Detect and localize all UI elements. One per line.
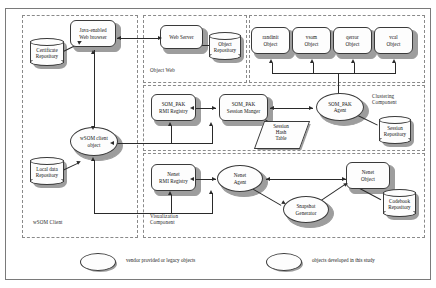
node-sompak-session-manager[interactable]: SOM_PAK Session Manger bbox=[219, 94, 268, 121]
connector-wsomclient-sompak bbox=[113, 143, 213, 144]
connector-wsomclient-down-viz bbox=[94, 160, 95, 213]
node-java-browser[interactable]: Java-enabled Web browser bbox=[70, 20, 116, 47]
connector-vcal-stub bbox=[395, 63, 396, 74]
arrowhead-to-nenetobject bbox=[342, 177, 346, 181]
certificate-repository: Certificate Repository bbox=[30, 38, 64, 66]
node-vcal-object[interactable]: vcal Object bbox=[374, 27, 413, 54]
arrowhead-to-nenetagent bbox=[212, 177, 216, 181]
arrowhead-up-randinit bbox=[269, 59, 273, 63]
group-label-wsom-client: wSOM Client bbox=[33, 219, 103, 225]
connector-nenetagent-nenetobject bbox=[266, 179, 346, 180]
legend-legacy-symbol bbox=[80, 253, 116, 271]
arrowhead-to-nenetrmi bbox=[190, 177, 194, 181]
node-randinit-object[interactable]: randinit Object bbox=[251, 27, 290, 54]
connector-vsom-stub bbox=[313, 63, 314, 74]
node-nenet-agent[interactable]: Nenet Agent bbox=[217, 165, 263, 192]
arrowhead-up-vcal bbox=[392, 59, 396, 63]
arrowhead-up-to-sessionmgr bbox=[209, 122, 213, 126]
arrowhead-to-sompakagent bbox=[309, 106, 313, 110]
session-hash-table-label: Session Hash Table bbox=[259, 123, 303, 141]
codebook-repository: Codebook Repository bbox=[383, 189, 416, 217]
connector-sompak-down bbox=[212, 126, 213, 144]
connector-randinit-stub bbox=[272, 63, 273, 74]
local-data-repository: Local data Repository bbox=[30, 157, 64, 185]
arrowhead-sompak-to-wsomclient bbox=[110, 141, 114, 145]
arrowhead-wsomclient-to-browser bbox=[91, 50, 95, 54]
arrowhead-to-sompakrmi bbox=[190, 106, 194, 110]
node-vsom-object[interactable]: vsom Object bbox=[292, 27, 331, 54]
node-web-server[interactable]: Web Server bbox=[160, 25, 203, 49]
legend-new-label: objects developed in this study bbox=[312, 257, 375, 264]
arrowhead-browser-to-webserver bbox=[158, 36, 162, 40]
session-repository: Session Repository bbox=[379, 116, 411, 144]
object-repository-label: Object Repository bbox=[209, 41, 241, 53]
connector-objects-bus bbox=[272, 73, 395, 74]
connector-viz-to-wsomclient bbox=[94, 213, 213, 214]
connector-nenetagent-down bbox=[212, 193, 213, 214]
group-label-clustering: Clustering Component bbox=[372, 93, 422, 105]
connector-sessionmgr-agent bbox=[270, 108, 313, 109]
group-label-object-web: Object Web bbox=[150, 67, 210, 73]
object-repository: Object Repository bbox=[209, 32, 241, 60]
legend-legacy-label: vendor provided or legacy objects bbox=[126, 257, 195, 264]
arrowhead-up-vsom bbox=[310, 59, 314, 63]
arrowhead-up-to-wsomclient-viz bbox=[91, 157, 95, 161]
arrowhead-up-to-nenetagent bbox=[209, 190, 213, 194]
arrowhead-webserver-to-browser bbox=[117, 36, 121, 40]
connector-sompakrmi-stub bbox=[171, 126, 172, 144]
connector-browser-wsomclient bbox=[94, 50, 95, 130]
node-sompak-agent[interactable]: SOM_PAK Agent bbox=[316, 93, 364, 121]
group-label-visualization: Visualization Component bbox=[150, 213, 206, 225]
arrowhead-up-to-sompakrmi bbox=[168, 122, 172, 126]
session-repository-label: Session Repository bbox=[379, 125, 411, 137]
arrowhead-to-sessionmgr bbox=[270, 106, 274, 110]
codebook-repository-label: Codebook Repository bbox=[383, 198, 416, 210]
arrowhead-browser-to-wsomclient bbox=[91, 126, 95, 130]
node-snapshot-generator[interactable]: Snapshot Generator bbox=[283, 196, 329, 223]
node-qerror-object[interactable]: qerror Object bbox=[333, 27, 372, 54]
connector-browser-webserver bbox=[117, 38, 162, 39]
arrowhead-to-nenetagent bbox=[266, 177, 270, 181]
arrowhead-to-sessionmgr bbox=[212, 106, 216, 110]
local-data-repository-label: Local data Repository bbox=[30, 166, 64, 178]
legend-new-symbol bbox=[266, 253, 302, 271]
connector-nenetrmi-stub bbox=[171, 195, 172, 214]
arrowhead-up-qerror bbox=[351, 59, 355, 63]
node-nenet-object[interactable]: Nenet Object bbox=[346, 162, 390, 189]
certificate-repository-label: Certificate Repository bbox=[30, 47, 64, 59]
architecture-diagram: wSOM Client Object Web Clustering Compon… bbox=[0, 0, 436, 288]
connector-qerror-stub bbox=[354, 63, 355, 74]
arrowhead-up-to-nenetrmi bbox=[168, 191, 172, 195]
